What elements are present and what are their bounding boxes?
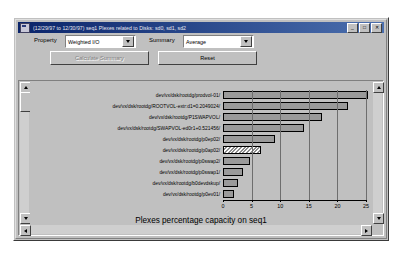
axis-tick: [337, 200, 338, 202]
bar-row[interactable]: /dev/vx/dsk/rootdg/prodvol-01: [30, 90, 372, 101]
bar[interactable]: [223, 179, 238, 187]
bar-track: [223, 112, 372, 123]
control-bar: Property Weighted I/O Summary Average Ca…: [18, 34, 384, 79]
bar-category-label: /dev/vx/dsk/rootdg/p0swap2: [30, 159, 223, 164]
minimize-button[interactable]: _: [347, 23, 358, 33]
window-inner-frame: (12/29/97 to 12/30/97) seq1 Plexes relat…: [15, 19, 387, 239]
bar-track: [223, 123, 372, 134]
bar[interactable]: [223, 190, 234, 198]
bar-row[interactable]: /dev/vx/dsk/rootdg/P1SWAPVOL: [30, 112, 372, 123]
property-select-chevron-down-icon[interactable]: [122, 36, 134, 47]
screenshot-root: (12/29/97 to 12/30/97) seq1 Plexes relat…: [0, 0, 400, 259]
summary-select-chevron-down-icon[interactable]: [240, 36, 252, 47]
bar-category-label: /dev/vx/dsk/rootdg/p0ap02: [30, 148, 223, 153]
bar[interactable]: [223, 124, 304, 132]
bar-category-label: /dev/vx/dsk/rootdg/P1SWAPVOL: [30, 115, 223, 120]
right-scroll-down-arrow-icon[interactable]: [373, 213, 384, 224]
bar-row[interactable]: /dev/vx/dsk/rootdg/SWAPVOL-ed0r1+0.52145…: [30, 123, 372, 134]
axis-tick-label: 5: [250, 203, 253, 209]
scroll-right-arrow-icon[interactable]: [361, 225, 372, 236]
reset-button[interactable]: Reset: [158, 51, 257, 65]
calculate-summary-button[interactable]: Calculate Summary: [50, 51, 149, 65]
left-vertical-scrollbar[interactable]: [20, 82, 29, 224]
property-select-value: Weighted I/O: [66, 39, 122, 45]
axis-tick-label: 15: [306, 203, 312, 209]
scroll-left-arrow-icon[interactable]: [20, 225, 31, 236]
bar-track: [223, 156, 372, 167]
axis-tick-label: 25: [363, 203, 369, 209]
bar-track: [223, 167, 372, 178]
bar[interactable]: [223, 146, 261, 154]
bar-track: [223, 101, 372, 112]
summary-select[interactable]: Average: [183, 35, 254, 48]
bar-category-label: /dev/vx/dsk/rootdg/p0ev01: [30, 192, 223, 197]
bar[interactable]: [223, 102, 348, 110]
bar-category-label: /dev/vx/dsk/rootdg/SWAPVOL-ed0r1+0.52145…: [30, 126, 223, 131]
axis-baseline: [223, 200, 366, 201]
bar-track: [223, 145, 372, 156]
property-select[interactable]: Weighted I/O: [65, 35, 136, 48]
close-button[interactable]: ✕: [371, 23, 382, 33]
plot-pane: /dev/vx/dsk/rootdg/prodvol-01/dev/vx/dsk…: [30, 82, 372, 224]
bar-row[interactable]: /dev/vx/dsk/rootdg/p0ep02: [30, 134, 372, 145]
bar[interactable]: [223, 168, 243, 176]
bar-row[interactable]: /dev/vx/dsk/rootdg/p0ap02: [30, 145, 372, 156]
title-bar[interactable]: (12/29/97 to 12/30/97) seq1 Plexes relat…: [18, 22, 384, 33]
bar-track: [223, 134, 372, 145]
horizontal-scrollbar[interactable]: [20, 225, 372, 234]
bar-track: [223, 178, 372, 189]
bar-category-label: /dev/vx/dsk/rootdg/ROOTVOL-extr:d1=0.204…: [30, 104, 223, 109]
bar-row[interactable]: /dev/vx/dsk/rootdg/ROOTVOL-extr:d1=0.204…: [30, 101, 372, 112]
right-scroll-up-arrow-icon[interactable]: [373, 82, 384, 93]
app-icon: [20, 23, 30, 33]
bar[interactable]: [223, 157, 250, 165]
bar-row[interactable]: /dev/vx/dsk/rootdg/b0devdskup: [30, 178, 372, 189]
summary-label: Summary: [149, 37, 175, 43]
chart-title: Plexes percentage capacity on seq1: [30, 216, 372, 225]
axis-tick-label: 20: [334, 203, 340, 209]
title-bar-buttons: _ □ ✕: [347, 23, 382, 33]
bar[interactable]: [223, 91, 368, 99]
maximize-button[interactable]: □: [359, 23, 370, 33]
bar-category-label: /dev/vx/dsk/rootdg/p0swap1: [30, 170, 223, 175]
bar[interactable]: [223, 113, 322, 121]
axis-tick: [366, 200, 367, 202]
bar-row[interactable]: /dev/vx/dsk/rootdg/p0ev01: [30, 189, 372, 200]
bar[interactable]: [223, 135, 275, 143]
bar-category-label: /dev/vx/dsk/rootdg/prodvol-01: [30, 93, 223, 98]
summary-select-value: Average: [184, 39, 240, 45]
bar-track: [223, 189, 372, 200]
axis-tick: [309, 200, 310, 202]
bar-rows: /dev/vx/dsk/rootdg/prodvol-01/dev/vx/dsk…: [30, 90, 372, 200]
bar-category-label: /dev/vx/dsk/rootdg/p0ep02: [30, 137, 223, 142]
bar-row[interactable]: /dev/vx/dsk/rootdg/p0swap2: [30, 156, 372, 167]
bar-category-label: /dev/vx/dsk/rootdg/b0devdskup: [30, 181, 223, 186]
right-vertical-scrollbar[interactable]: [373, 82, 382, 224]
bar-track: [223, 90, 372, 101]
bar-chart: /dev/vx/dsk/rootdg/prodvol-01/dev/vx/dsk…: [30, 82, 372, 224]
bar-row[interactable]: /dev/vx/dsk/rootdg/p0swap1: [30, 167, 372, 178]
axis-tick: [252, 200, 253, 202]
chart-client-area: /dev/vx/dsk/rootdg/prodvol-01/dev/vx/dsk…: [18, 80, 384, 236]
property-label: Property: [34, 37, 57, 43]
window-title: (12/29/97 to 12/30/97) seq1 Plexes relat…: [33, 25, 347, 31]
axis-tick: [280, 200, 281, 202]
axis-tick-label: 0: [222, 203, 225, 209]
axis-tick-label: 10: [277, 203, 283, 209]
axis-tick: [223, 200, 224, 202]
application-window: (12/29/97 to 12/30/97) seq1 Plexes relat…: [13, 17, 389, 241]
